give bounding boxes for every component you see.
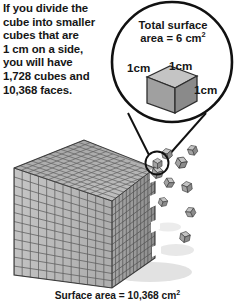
callout-exponent: 2: [202, 30, 206, 39]
caption-text: Surface area = 10,368 cm: [55, 290, 177, 301]
highlighted-unit-cube-icon: [153, 158, 162, 168]
explanation-line: you will have: [3, 56, 111, 70]
callout-title-line: area = 6 cm2: [127, 32, 219, 45]
dimension-label-left: 1cm: [127, 61, 150, 74]
dimension-label-right: 1cm: [194, 83, 217, 96]
explanation-line: If you divide the: [3, 2, 111, 16]
callout-title: Total surface area = 6 cm2: [127, 19, 219, 45]
leader-line-left-icon: [128, 113, 149, 155]
explanation-line: cube into smaller: [3, 16, 111, 30]
explanation-paragraph: If you divide the cube into smaller cube…: [3, 2, 111, 97]
explanation-line: cubes that are: [3, 29, 111, 43]
explanation-line: 1,728 cubes and: [3, 70, 111, 84]
figure-caption: Surface area = 10,368 cm2: [0, 290, 235, 301]
explanation-line: 1 cm on a side,: [3, 43, 111, 57]
dimension-label-top: 1cm: [169, 59, 192, 72]
caption-exponent: 2: [176, 289, 180, 296]
explanation-line: 10,368 faces.: [3, 84, 111, 98]
